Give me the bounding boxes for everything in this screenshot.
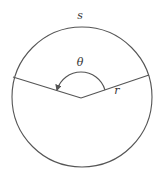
left-radius-line	[13, 77, 81, 98]
angle-label-theta: θ	[77, 56, 84, 69]
arc-length-label-s: s	[77, 9, 83, 22]
outer-circle	[12, 27, 152, 167]
radius-label-r: r	[114, 84, 120, 97]
angle-theta-arc	[57, 72, 105, 90]
circle-sector-diagram: s θ r	[0, 0, 160, 178]
